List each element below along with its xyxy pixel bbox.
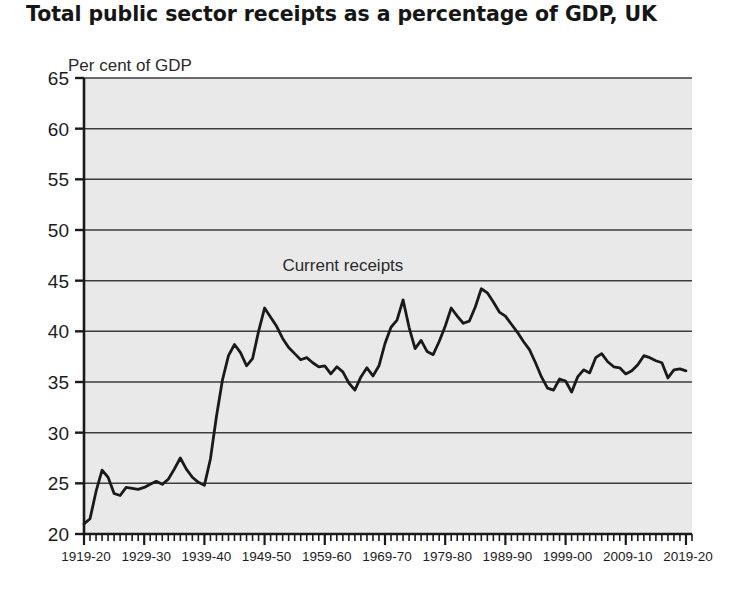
x-tick-label-1939-40: 1939-40: [182, 549, 232, 564]
y-axis-ticks-group: [75, 78, 84, 534]
y-tick-label-30: 30: [48, 423, 69, 444]
x-tick-label-1919-20: 1919-20: [61, 549, 111, 564]
line-chart-plot: 20253035404550556065 1919-201929-301939-…: [0, 0, 733, 592]
x-tick-label-1969-70: 1969-70: [362, 549, 412, 564]
x-tick-label-2019-20: 2019-20: [663, 549, 713, 564]
y-tick-label-40: 40: [48, 321, 69, 342]
x-axis-labels-group: 1919-201929-301939-401949-501959-601969-…: [61, 549, 713, 564]
y-axis-labels-group: 20253035404550556065: [48, 68, 69, 545]
y-tick-label-65: 65: [48, 68, 69, 89]
y-tick-label-20: 20: [48, 524, 69, 545]
y-tick-label-35: 35: [48, 372, 69, 393]
x-tick-label-1979-80: 1979-80: [422, 549, 472, 564]
chart-figure: Total public sector receipts as a percen…: [0, 0, 733, 592]
y-tick-label-60: 60: [48, 119, 69, 140]
x-tick-label-2009-10: 2009-10: [603, 549, 653, 564]
x-tick-label-1949-50: 1949-50: [242, 549, 292, 564]
x-tick-label-1989-90: 1989-90: [483, 549, 533, 564]
y-tick-label-45: 45: [48, 271, 69, 292]
x-tick-label-1959-60: 1959-60: [302, 549, 352, 564]
x-tick-label-1929-30: 1929-30: [121, 549, 171, 564]
y-tick-label-25: 25: [48, 473, 69, 494]
y-tick-label-50: 50: [48, 220, 69, 241]
x-tick-label-1999-00: 1999-00: [543, 549, 593, 564]
x-axis-ticks-group: [84, 534, 692, 545]
y-tick-label-55: 55: [48, 169, 69, 190]
series-annotation-current-receipts: Current receipts: [282, 256, 403, 275]
